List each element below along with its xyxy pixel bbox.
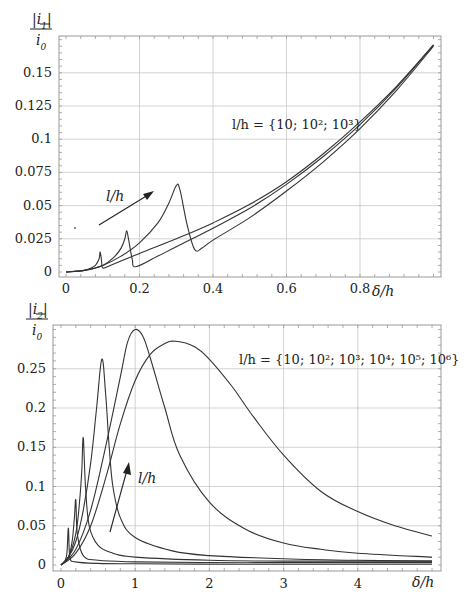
bottom-chart-xlabel: δ/h [412,574,434,590]
top-arrow: l/h [99,188,154,225]
y-tick-label: 0.15 [23,65,52,80]
data-series-line [66,45,434,272]
x-tick-label: 1 [131,576,139,591]
bottom-chart: 0123400.050.10.150.20.25 |i2| i0 δ/h l/h… [17,301,459,591]
x-tick-label: 3 [279,576,287,591]
bottom-chart-annotation: l/h = {10; 10²; 10³; 10⁴; 10⁵; 10⁶} [239,352,459,367]
data-series-line [61,528,432,565]
top-chart-ticks: 00.20.40.60.800.0250.050.0750.10.1250.15 [15,36,441,296]
x-tick-label: 0.8 [350,281,371,296]
data-series-line [61,359,432,565]
x-tick-label: 0.6 [276,281,297,296]
top-chart-curves [66,45,434,272]
x-tick-label: 0 [62,281,70,296]
y-tick-label: 0.025 [15,231,52,246]
bottom-ylabel-numerator: |i2| [28,301,48,321]
x-tick-label: 4 [354,576,362,591]
stray-dot [74,227,76,229]
y-tick-label: 0 [44,264,52,279]
x-tick-label: 0.4 [203,281,224,296]
y-tick-label: 0.05 [17,518,46,533]
top-chart-grid [59,36,441,277]
x-tick-label: 0 [57,576,65,591]
y-tick-label: 0.075 [15,164,52,179]
data-series-line [61,341,432,565]
data-series-line [61,438,432,565]
bottom-chart-ylabel: |i2| i0 [26,301,48,342]
top-chart: 00.20.40.60.800.0250.050.0750.10.1250.15… [15,11,441,299]
data-series-line [66,45,434,272]
bottom-arrow-label: l/h [138,470,156,486]
bottom-arrow: l/h [110,462,156,532]
top-chart-ylabel: |i1| i0 [30,11,52,52]
y-tick-label: 0.25 [17,361,46,376]
top-chart-xlabel: δ/h [372,283,394,299]
arrow-head-icon [143,191,154,200]
bottom-ylabel-denominator: i0 [32,322,42,342]
y-tick-label: 0.2 [25,400,46,415]
y-tick-label: 0.15 [17,439,46,454]
y-tick-label: 0 [38,557,46,572]
top-chart-frame [59,36,441,277]
chart-canvas: 00.20.40.60.800.0250.050.0750.10.1250.15… [0,0,467,608]
top-ylabel-denominator: i0 [36,32,46,52]
data-series-line [66,46,434,272]
y-tick-label: 0.1 [31,131,52,146]
top-ylabel-numerator: |i1| [32,11,52,31]
y-tick-label: 0.1 [25,479,46,494]
x-tick-label: 0.2 [129,281,150,296]
arrow-head-icon [123,462,131,475]
top-chart-annotation: l/h = {10; 10²; 10³} [232,117,362,132]
top-arrow-label: l/h [106,188,124,204]
x-tick-label: 2 [205,576,213,591]
y-tick-label: 0.125 [15,98,52,113]
y-tick-label: 0.05 [23,198,52,213]
